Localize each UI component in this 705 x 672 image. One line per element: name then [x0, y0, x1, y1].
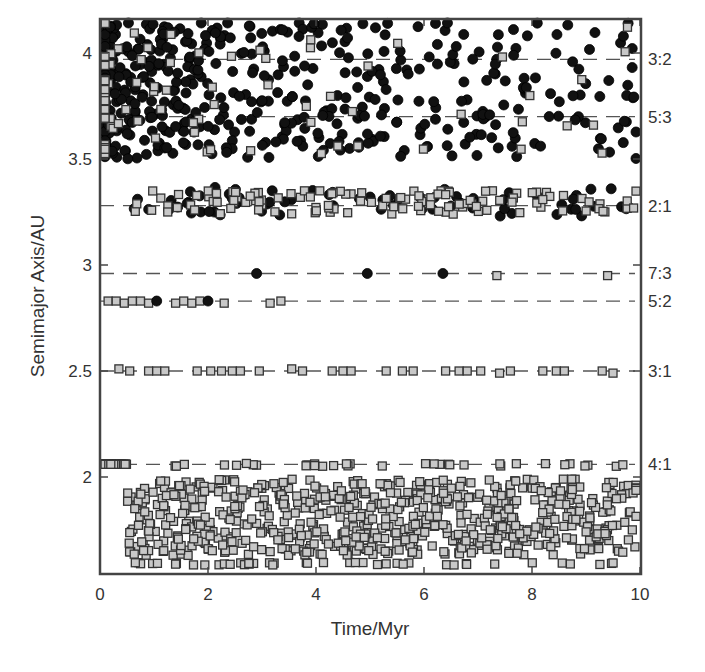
data-point-square — [128, 297, 136, 305]
data-point-square — [559, 207, 567, 215]
data-point-square — [257, 529, 265, 537]
data-point-square — [164, 208, 172, 216]
data-point-square — [101, 19, 109, 27]
data-point-circle — [343, 33, 353, 43]
data-point-square — [562, 534, 570, 542]
data-point-square — [181, 501, 189, 509]
data-point-square — [156, 511, 164, 519]
data-point-square — [138, 538, 146, 546]
data-point-square — [157, 105, 165, 113]
y-tick-label: 3 — [83, 256, 92, 275]
data-point-circle — [335, 48, 345, 58]
data-point-square — [104, 297, 112, 305]
data-point-square — [354, 142, 362, 150]
data-point-square — [245, 559, 253, 567]
data-point-circle — [571, 204, 581, 214]
y-tick-label: 3.5 — [68, 150, 92, 169]
data-point-square — [415, 192, 423, 200]
data-point-square — [430, 460, 438, 468]
data-point-circle — [585, 44, 595, 54]
data-point-circle — [370, 94, 380, 104]
x-tick-label: 10 — [631, 585, 650, 604]
data-point-circle — [491, 120, 501, 130]
data-point-circle — [171, 122, 181, 132]
data-point-square — [397, 194, 405, 202]
data-point-square — [506, 367, 514, 375]
data-point-square — [462, 537, 470, 545]
data-point-circle — [278, 25, 288, 35]
data-point-square — [264, 81, 272, 89]
data-point-square — [167, 514, 175, 522]
x-tick-label: 6 — [419, 585, 428, 604]
data-point-square — [619, 548, 627, 556]
data-point-square — [269, 561, 277, 569]
data-point-circle — [332, 119, 342, 129]
data-point-square — [131, 207, 139, 215]
data-point-square — [189, 119, 197, 127]
data-point-square — [632, 187, 640, 195]
data-point-square — [483, 496, 491, 504]
data-point-square — [306, 44, 314, 52]
resonance-label: 3:1 — [648, 362, 672, 381]
data-point-square — [191, 206, 199, 214]
data-point-square — [621, 48, 629, 56]
data-point-square — [131, 559, 139, 567]
data-point-square — [339, 367, 347, 375]
data-point-circle — [287, 92, 297, 102]
data-point-circle — [248, 68, 258, 78]
data-point-circle — [430, 114, 440, 124]
data-point-square — [549, 551, 557, 559]
data-point-circle — [327, 38, 337, 48]
resonance-label: 4:1 — [648, 455, 672, 474]
data-point-square — [164, 529, 172, 537]
data-point-square — [162, 492, 170, 500]
data-point-circle — [141, 149, 151, 159]
data-point-square — [446, 461, 454, 469]
data-point-square — [603, 501, 611, 509]
data-point-circle — [193, 65, 203, 75]
data-point-square — [312, 207, 320, 215]
data-point-square — [632, 486, 640, 494]
data-point-square — [624, 536, 632, 544]
data-point-square — [206, 532, 214, 540]
data-point-square — [248, 515, 256, 523]
data-point-circle — [162, 143, 172, 153]
data-point-square — [539, 367, 547, 375]
data-point-square — [358, 189, 366, 197]
data-point-circle — [509, 50, 519, 60]
data-point-square — [255, 198, 263, 206]
data-point-square — [207, 146, 215, 154]
data-point-square — [365, 547, 373, 555]
data-point-square — [599, 207, 607, 215]
data-point-square — [327, 507, 335, 515]
data-point-square — [463, 560, 471, 568]
data-point-square — [101, 105, 109, 113]
data-point-square — [293, 492, 301, 500]
data-point-square — [238, 494, 246, 502]
data-point-square — [124, 489, 132, 497]
data-point-circle — [193, 140, 203, 150]
data-point-circle — [259, 71, 269, 81]
data-point-square — [334, 142, 342, 150]
data-point-circle — [114, 72, 124, 82]
data-point-circle — [413, 22, 423, 32]
data-point-square — [409, 367, 417, 375]
data-point-circle — [152, 296, 162, 306]
data-point-circle — [110, 89, 120, 99]
data-point-square — [307, 118, 315, 126]
data-point-square — [454, 530, 462, 538]
data-point-circle — [178, 138, 188, 148]
data-point-square — [145, 527, 153, 535]
data-point-square — [316, 187, 324, 195]
data-point-square — [115, 365, 123, 373]
data-point-square — [208, 83, 216, 91]
data-point-square — [582, 528, 590, 536]
data-point-square — [628, 526, 636, 534]
data-point-square — [539, 509, 547, 517]
data-point-square — [516, 209, 524, 217]
data-point-square — [313, 528, 321, 536]
data-point-circle — [343, 53, 353, 63]
data-point-square — [213, 189, 221, 197]
data-point-square — [101, 86, 109, 94]
data-point-square — [516, 530, 524, 538]
